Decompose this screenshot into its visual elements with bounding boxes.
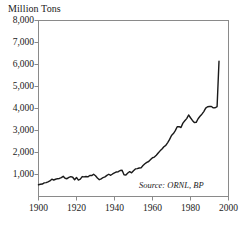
x-tick-label: 1920 [60, 203, 94, 213]
x-tick-label: 1940 [98, 203, 132, 213]
y-tick-label: 6,000 [2, 59, 34, 69]
y-tick-label: 4,000 [2, 103, 34, 113]
y-tick-label: 5,000 [2, 81, 34, 91]
source-annotation: Source: ORNL, BP [139, 180, 204, 190]
x-tick-label: 1900 [22, 203, 56, 213]
y-tick-label: 3,000 [2, 125, 34, 135]
y-tick-label: 8,000 [2, 15, 34, 25]
x-axis-ticks [39, 197, 229, 201]
x-tick-label: 1960 [136, 203, 170, 213]
chart-figure: Million Tons 8,0007,0006,0005,0004,0003,… [0, 0, 245, 229]
x-tick-label: 1980 [174, 203, 208, 213]
y-axis-ticks [35, 21, 39, 175]
x-tick-label: 2000 [212, 203, 246, 213]
y-tick-label: 2,000 [2, 147, 34, 157]
y-tick-label: 7,000 [2, 37, 34, 47]
y-tick-label: 1,000 [2, 169, 34, 179]
plot-area [0, 0, 245, 229]
